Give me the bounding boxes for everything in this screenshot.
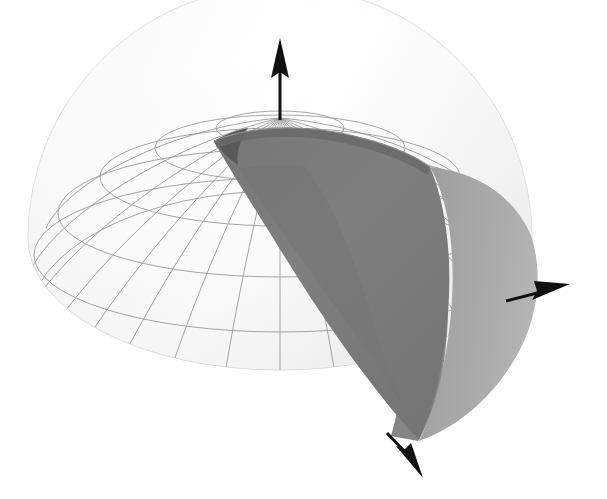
figure-canvas: Hemispherical dome with conical cut-out … <box>0 0 607 499</box>
three-d-surface-figure <box>0 0 607 499</box>
x-axis-arrowhead <box>396 443 423 478</box>
y-axis-arrowhead <box>532 281 570 300</box>
